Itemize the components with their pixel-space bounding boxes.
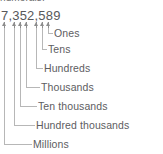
leader-stem-ten-thousands [20,28,21,106]
leader-stem-thousands [26,28,27,87]
leader-stem-hundreds [36,28,37,68]
leader-stem-millions [4,28,5,144]
place-label-thousands: Thousands [41,82,94,93]
place-label-millions: Millions [33,139,69,150]
leader-line-thousands [26,87,40,88]
place-label-ten-thousands: Ten thousands [38,101,108,112]
place-label-hundreds: Hundreds [44,63,90,74]
place-label-tens: Tens [48,44,71,55]
leader-stem-tens [42,28,43,49]
leader-line-tens [42,49,47,50]
place-value-diagram: numerals. 7,352,589 OnesTensHundredsThou… [0,0,163,154]
place-label-hundred-thousands: Hundred thousands [36,120,129,131]
leader-line-ten-thousands [20,106,37,107]
leader-line-millions [4,144,32,145]
leader-stem-hundred-thousands [14,28,15,125]
clipped-heading-text: numerals. [0,0,45,3]
numeral-value: 7,352,589 [1,9,61,22]
leader-line-hundreds [36,68,43,69]
leader-line-ones [48,33,53,34]
leader-line-hundred-thousands [14,125,35,126]
place-label-ones: Ones [54,28,80,39]
